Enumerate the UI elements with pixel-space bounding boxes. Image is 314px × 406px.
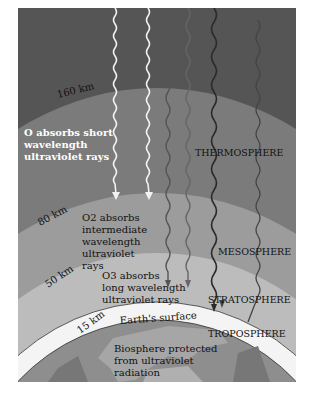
svg-text:from ultraviolet: from ultraviolet — [114, 355, 194, 366]
svg-text:O3 absorbs: O3 absorbs — [102, 270, 160, 281]
svg-text:O absorbs short: O absorbs short — [24, 127, 113, 138]
svg-text:wavelength: wavelength — [23, 139, 88, 150]
svg-text:radiation: radiation — [114, 367, 161, 378]
svg-text:O2 absorbs: O2 absorbs — [82, 212, 140, 223]
stratosphere-label: STRATOSPHERE — [208, 294, 291, 305]
svg-text:rays: rays — [82, 260, 104, 271]
svg-text:long wavelength: long wavelength — [102, 282, 186, 293]
svg-text:ultraviolet rays: ultraviolet rays — [102, 294, 179, 305]
atmosphere-uv-diagram: 160 km 80 km 50 km 15 km O absorbs short… — [18, 8, 296, 382]
troposphere-label: TROPOSPHERE — [208, 328, 286, 339]
svg-text:ultraviolet rays: ultraviolet rays — [24, 151, 110, 162]
svg-text:Biosphere protected: Biosphere protected — [114, 343, 218, 354]
thermosphere-label: THERMOSPHERE — [195, 147, 283, 158]
svg-text:wavelength: wavelength — [82, 236, 141, 247]
svg-text:ultraviolet: ultraviolet — [82, 248, 134, 259]
mesosphere-label: MESOSPHERE — [218, 246, 291, 257]
svg-text:intermediate: intermediate — [82, 224, 147, 235]
